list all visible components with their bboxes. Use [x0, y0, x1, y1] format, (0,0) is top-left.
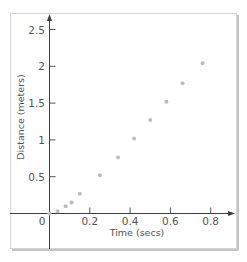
x-axis-label: Time (secs) — [109, 227, 165, 238]
data-points — [48, 61, 205, 215]
data-point — [148, 118, 152, 122]
y-axis-label: Distance (meters) — [15, 74, 26, 160]
data-point — [70, 200, 74, 204]
data-point — [64, 204, 68, 208]
y-tick-label: 1 — [38, 134, 45, 146]
x-tick-label: 0.2 — [81, 215, 98, 227]
scatter-chart: 00.20.40.60.8 0.511.522.5 Time (secs) Di… — [0, 0, 247, 262]
x-axis-arrow-icon — [228, 211, 235, 216]
x-tick-label: 0.4 — [122, 215, 139, 227]
data-point — [48, 212, 52, 216]
x-tick-label: 0.6 — [162, 215, 179, 227]
x-tick-label: 0 — [39, 215, 46, 227]
data-point — [201, 61, 205, 65]
y-tick-label: 1.5 — [28, 97, 45, 109]
y-tick-label: 0.5 — [28, 171, 45, 183]
y-axis-arrow-icon — [47, 14, 52, 21]
data-point — [98, 173, 102, 177]
data-point — [116, 156, 120, 160]
data-point — [164, 100, 168, 104]
data-point — [78, 192, 82, 196]
y-tick-label: 2.5 — [28, 24, 45, 36]
data-point — [180, 81, 184, 85]
y-axis-ticks: 0.511.522.5 — [28, 24, 55, 183]
x-tick-label: 0.8 — [202, 215, 219, 227]
data-point — [56, 209, 60, 213]
data-point — [132, 136, 136, 140]
figure-caption-cutoff — [8, 253, 208, 259]
y-tick-label: 2 — [38, 60, 45, 72]
x-axis-ticks: 00.20.40.60.8 — [39, 208, 219, 228]
